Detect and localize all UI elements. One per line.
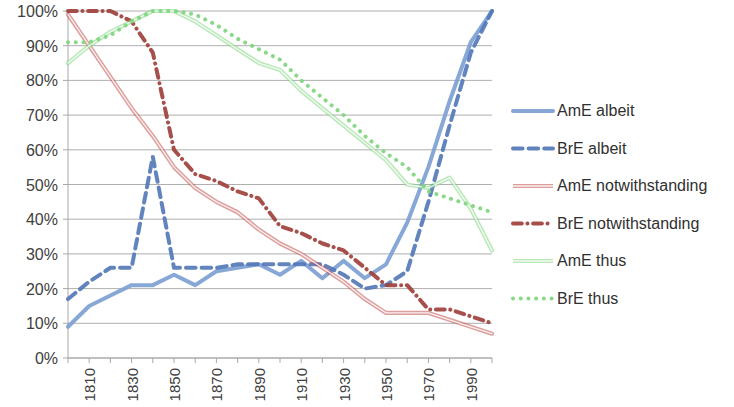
line-chart: 0%10%20%30%40%50%60%70%80%90%100%1810183… (0, 0, 734, 407)
legend-label-0: AmE albeit (557, 102, 635, 119)
x-axis-label: 1950 (378, 368, 395, 401)
x-axis-label: 1910 (293, 368, 310, 401)
series-line-5 (68, 11, 492, 212)
y-axis-label: 80% (26, 72, 58, 89)
x-axis-label: 1870 (208, 368, 225, 401)
series-line-1 (68, 11, 492, 299)
x-axis-label: 1970 (420, 368, 437, 401)
y-axis-label: 40% (26, 211, 58, 228)
x-axis-label: 1810 (81, 368, 98, 401)
legend-item-4[interactable]: AmE thus (513, 252, 626, 269)
x-axis-label: 1850 (166, 368, 183, 401)
x-axis-label: 1830 (124, 368, 141, 401)
x-axis-label: 1890 (251, 368, 268, 401)
y-axis-label: 70% (26, 107, 58, 124)
legend-item-0[interactable]: AmE albeit (513, 102, 635, 119)
legend-item-1[interactable]: BrE albeit (513, 140, 627, 157)
series-line-core-4 (68, 11, 492, 250)
legend-label-1: BrE albeit (557, 140, 627, 157)
y-axis-label: 0% (35, 350, 58, 367)
y-axis-label: 60% (26, 142, 58, 159)
chart-canvas: 0%10%20%30%40%50%60%70%80%90%100%1810183… (0, 0, 734, 407)
legend-label-3: BrE notwithstanding (557, 215, 699, 232)
x-axis-label: 1930 (336, 368, 353, 401)
legend-label-2: AmE notwithstanding (557, 177, 707, 194)
y-axis-label: 20% (26, 281, 58, 298)
series-line-4 (68, 11, 492, 250)
y-axis-label: 90% (26, 38, 58, 55)
y-axis-label: 50% (26, 177, 58, 194)
legend-label-4: AmE thus (557, 252, 626, 269)
legend-item-3[interactable]: BrE notwithstanding (513, 215, 699, 232)
legend-item-2[interactable]: AmE notwithstanding (513, 177, 707, 194)
x-axis-label: 1990 (463, 368, 480, 401)
legend-item-5[interactable]: BrE thus (513, 290, 618, 307)
y-axis-label: 100% (17, 3, 58, 20)
legend-label-5: BrE thus (557, 290, 618, 307)
y-axis-label: 30% (26, 246, 58, 263)
y-axis-label: 10% (26, 315, 58, 332)
